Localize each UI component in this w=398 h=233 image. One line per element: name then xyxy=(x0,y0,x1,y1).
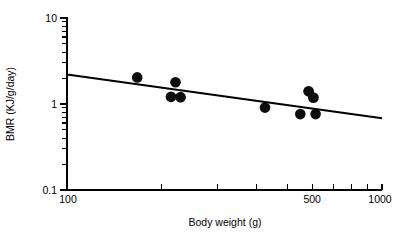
x-tick-label-1000: 1000 xyxy=(368,193,392,205)
data-point xyxy=(260,102,271,113)
y-tick-label-10: 10 xyxy=(45,12,57,24)
x-tick-label-100: 100 xyxy=(59,193,77,205)
data-point xyxy=(310,109,321,120)
x-tick-label-500: 500 xyxy=(303,193,321,205)
x-axis-title: Body weight (g) xyxy=(189,216,262,228)
data-point xyxy=(166,91,177,102)
y-tick-label-1: 1 xyxy=(51,98,57,110)
data-point xyxy=(170,77,181,88)
x-axis-ticks xyxy=(162,184,382,191)
y-tick-label-0.1: 0.1 xyxy=(42,184,57,196)
data-point xyxy=(295,109,306,120)
chart-canvas: 10 1 0.1 100 500 1000 Body weight (g) BM… xyxy=(0,0,398,233)
bmr-body-weight-figure: 10 1 0.1 100 500 1000 Body weight (g) BM… xyxy=(0,0,398,233)
y-axis-title: BMR (KJ/g/day) xyxy=(4,67,16,141)
regression-line xyxy=(67,75,382,119)
data-point xyxy=(132,72,143,83)
y-axis-minor-ticks xyxy=(62,22,67,164)
data-point xyxy=(175,92,186,103)
data-point xyxy=(308,92,319,103)
